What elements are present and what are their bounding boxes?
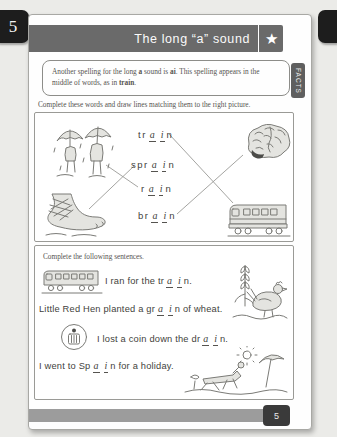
answer-letter: i (213, 334, 218, 346)
star-icon: ★ (265, 31, 278, 46)
answer-letter: a (148, 184, 155, 196)
word-rain: rain (141, 183, 172, 196)
train-illustration (227, 197, 291, 237)
sentence-2: Little Red Hen planted a grain of wheat. (39, 304, 222, 316)
facts-tab-label: FACTS (295, 68, 302, 94)
answer-letter: i (160, 130, 165, 142)
left-page-tab: 5 (0, 10, 29, 43)
star-box: ★ (258, 25, 283, 52)
brain-illustration (243, 121, 293, 163)
facts-box: Another spelling for the long a sound is… (42, 60, 290, 96)
answer-letter: a (166, 276, 173, 288)
page-title: The long “a” sound (134, 32, 258, 46)
sentences-box: Complete the following sentences. (34, 245, 294, 400)
word-brain: brain (138, 210, 176, 223)
answer-letter: a (151, 160, 158, 172)
sentence-3: I lost a coin down the drain. (97, 334, 228, 346)
answer-letter: i (162, 160, 167, 172)
answer-letter: i (177, 276, 182, 288)
answer-letter: a (157, 304, 164, 316)
word-train: train (138, 129, 173, 142)
right-page-tab (318, 10, 337, 43)
left-page-tab-number: 5 (9, 17, 18, 37)
train-small-illustration (41, 266, 103, 296)
matching-box: train sprain rain brain (34, 112, 294, 242)
answer-letter: a (93, 361, 100, 373)
answer-letter: a (151, 211, 158, 223)
beach-illustration (183, 346, 291, 396)
answer-letter: i (159, 184, 164, 196)
worksheet-page: The long “a” sound ★ FACTS Another spell… (28, 14, 312, 430)
header-bar: The long “a” sound ★ (29, 25, 283, 52)
word-sprain: sprain (131, 159, 175, 172)
answer-letter: a (149, 130, 156, 142)
sentence-4: I went to Spain for a holiday. (39, 361, 174, 373)
footer-page-number: 5 (274, 411, 279, 421)
footer-bar (29, 409, 265, 422)
answer-letter: i (168, 304, 173, 316)
answer-letter: i (104, 361, 109, 373)
drain-icon (59, 322, 89, 352)
facts-text: Another spelling for the long a sound is… (52, 67, 259, 87)
answer-letter: a (202, 334, 209, 346)
rain-illustration (53, 118, 117, 180)
answer-letter: i (162, 211, 167, 223)
sentence-1: I ran for the train. (105, 276, 192, 288)
hen-illustration (231, 260, 289, 320)
sentences-instruction: Complete the following sentences. (43, 252, 144, 261)
footer-page-tab: 5 (263, 405, 290, 426)
sprain-illustration (38, 193, 110, 239)
facts-tab: FACTS (291, 63, 305, 98)
matching-instruction: Complete these words and draw lines matc… (38, 100, 250, 109)
